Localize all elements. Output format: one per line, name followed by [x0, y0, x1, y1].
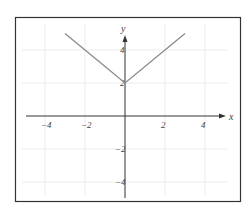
x-tick-label: −2: [81, 120, 92, 130]
x-axis-label: x: [228, 111, 234, 122]
chart-frame: [16, 18, 241, 202]
y-tick-label: 4: [120, 45, 125, 55]
y-axis-label: y: [120, 23, 126, 34]
x-tick-label: −4: [41, 120, 52, 130]
x-tick-label: 4: [201, 120, 206, 130]
x-tick-label: 2: [161, 120, 166, 130]
y-tick-label: −4: [115, 177, 126, 187]
chart: −4−22442−2−4 x y: [0, 0, 251, 213]
y-tick-label: −2: [115, 144, 126, 154]
